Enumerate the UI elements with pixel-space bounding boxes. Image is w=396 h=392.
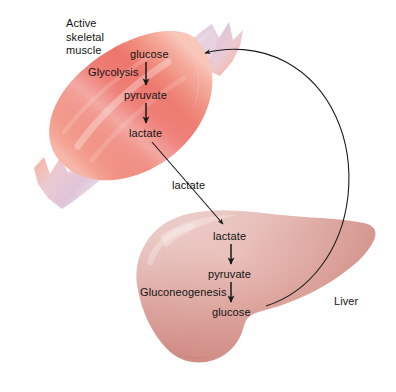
gluconeogenesis-pathway-label: Gluconeogenesis [140,286,227,300]
transport-lactate-label: lactate [172,179,205,193]
glycolysis-pathway-label: Glycolysis [88,66,139,80]
liver-glucose-label: glucose [212,306,251,320]
cori-cycle-diagram: Active skeletal muscle glucose Glycolysi… [0,0,396,392]
liver-pyruvate-label: pyruvate [208,268,251,282]
muscle-lactate-label: lactate [129,127,162,141]
muscle-pyruvate-label: pyruvate [124,89,167,103]
liver-lactate-label: lactate [213,230,246,244]
liver-organ-label: Liver [334,295,358,309]
diagram-canvas [0,0,396,392]
muscle-glucose-label: glucose [130,48,169,62]
muscle-organ-label: Active skeletal muscle [66,17,104,58]
